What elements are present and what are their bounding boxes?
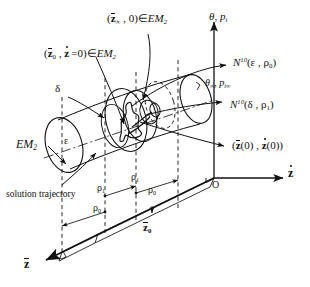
label-rho0-upper: ρ0 [148, 185, 156, 196]
label-origin: O [212, 180, 219, 190]
tube-bottom-edge [70, 124, 200, 169]
zinf-var: z [111, 13, 116, 24]
leader-solution [62, 153, 96, 185]
label-rho0-lower: ρ0 [93, 203, 101, 214]
leader-initial-state [140, 122, 224, 146]
label-theta-inf-pi-inf: θ∞, pi∞ [205, 78, 230, 89]
label-z0-zdot-in-em2: (z0 , z =0)∈EM2 [44, 48, 116, 61]
label-n10-epsilon-rho0: N10(ε , ρ0) [233, 57, 276, 70]
leader-delta [68, 97, 104, 118]
rho1-upper-arrow [105, 186, 136, 196]
label-axis-zdot: z [288, 167, 293, 179]
label-axis-zbar: z [24, 258, 29, 270]
label-rho1-lower: ρ1 [131, 172, 139, 183]
rho0-upper-arrow [136, 180, 178, 193]
label-em2-left: EM2 [16, 138, 37, 152]
right-angle-tube [196, 82, 200, 90]
label-epsilon: ε [64, 136, 68, 146]
tube-top-edge [58, 74, 192, 120]
leader-z0 [96, 57, 124, 124]
label-zbar0: z0 [143, 222, 151, 235]
leader-em2 [48, 146, 66, 164]
label-solution-trajectory: solution trajectory [6, 190, 75, 200]
label-zinf-in-em2: (z∞ , 0)∈EM2 [107, 13, 167, 26]
label-initial-state: (z(0) , z(0)) [232, 140, 283, 151]
label-theta-pi: θ, pi [209, 11, 227, 24]
math-diagram-figure: (z∞ , 0)∈EM2 θ, pi (z0 , z =0)∈EM2 N10(ε… [0, 0, 310, 287]
rho0-lower-arrow [62, 212, 105, 226]
label-n10-delta-rho1: N10(δ , ρ1) [230, 99, 274, 112]
rho-measure-arrows [62, 180, 178, 226]
label-rho1-upper: ρ1 [97, 183, 105, 194]
label-delta: δ [55, 83, 60, 94]
